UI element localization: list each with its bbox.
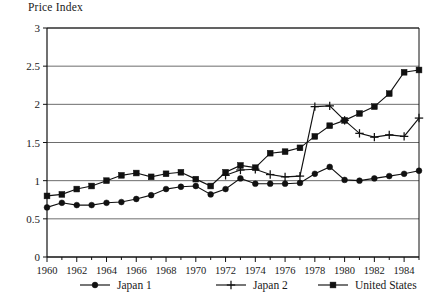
series-japan-2 [221, 102, 423, 181]
data-point-1-1982 [370, 133, 378, 141]
x-tick-label-1970: 1970 [185, 265, 206, 276]
data-point-2-1972 [223, 169, 229, 175]
data-point-2-1976 [282, 149, 288, 155]
y-tick-label-1: 1 [35, 175, 41, 187]
data-point-2-1970 [193, 176, 199, 182]
data-point-2-1966 [133, 170, 139, 176]
data-point-1-1978 [311, 102, 319, 110]
x-tick-label-1978: 1978 [304, 265, 325, 276]
data-point-0-1981 [357, 178, 363, 184]
data-point-0-1962 [74, 202, 80, 208]
gridlines-group [47, 28, 419, 257]
data-point-2-1981 [357, 111, 363, 117]
y-axis-ticks: 00.511.522.53 [26, 22, 47, 263]
data-point-2-1969 [178, 169, 184, 175]
data-point-2-1967 [148, 174, 154, 180]
y-tick-label-2: 2 [35, 98, 41, 110]
data-point-0-1970 [193, 183, 199, 189]
y-tick-label-0: 0 [35, 251, 41, 263]
data-point-2-1985 [416, 67, 422, 73]
data-point-1-1976 [281, 173, 289, 181]
data-point-0-1982 [371, 175, 377, 181]
series-united-states [44, 67, 422, 199]
data-point-0-1979 [327, 164, 333, 170]
data-series-group [44, 67, 423, 210]
data-point-0-1972 [223, 186, 229, 192]
data-point-0-1976 [282, 181, 288, 187]
x-tick-label-1974: 1974 [245, 265, 267, 276]
legend-item-japan-1[interactable]: Japan 1 [80, 279, 152, 292]
data-point-0-1971 [208, 192, 214, 198]
data-point-0-1966 [133, 196, 139, 202]
legend-item-united-states[interactable]: United States [318, 279, 417, 291]
data-point-0-1967 [148, 192, 154, 198]
legend-label-0: Japan 1 [117, 279, 152, 292]
data-point-0-1973 [238, 175, 244, 181]
data-point-0-1978 [312, 171, 318, 177]
legend-marker-circle-icon [92, 282, 98, 288]
data-point-2-1965 [119, 172, 125, 178]
data-point-2-1968 [163, 171, 169, 177]
price-index-chart-figure: Price Index 00.511.522.53 19601962196419… [0, 0, 432, 298]
data-point-0-1974 [252, 181, 258, 187]
y-tick-label-0.5: 0.5 [26, 213, 40, 225]
data-point-2-1984 [401, 69, 407, 75]
data-point-0-1964 [104, 200, 110, 206]
data-point-2-1961 [59, 192, 65, 198]
x-tick-label-1964: 1964 [96, 265, 118, 276]
data-point-0-1980 [342, 177, 348, 183]
x-tick-label-1962: 1962 [66, 265, 87, 276]
data-point-2-1975 [267, 150, 273, 156]
data-point-2-1977 [297, 145, 303, 151]
x-tick-label-1984: 1984 [394, 265, 416, 276]
data-point-0-1975 [267, 181, 273, 187]
data-point-0-1968 [163, 186, 169, 192]
x-tick-label-1960: 1960 [37, 265, 58, 276]
data-point-0-1985 [416, 168, 422, 174]
x-tick-label-1968: 1968 [156, 265, 177, 276]
data-point-1-1975 [266, 170, 274, 178]
data-point-0-1963 [89, 202, 95, 208]
data-point-2-1973 [238, 163, 244, 169]
x-tick-label-1982: 1982 [364, 265, 385, 276]
x-tick-label-1976: 1976 [275, 265, 296, 276]
legend-marker-plus-icon [227, 281, 235, 289]
y-tick-label-2.5: 2.5 [26, 60, 40, 72]
x-tick-label-1980: 1980 [334, 265, 355, 276]
data-point-2-1964 [104, 178, 110, 184]
chart-title: Price Index [28, 1, 83, 13]
data-point-2-1983 [386, 91, 392, 97]
data-point-2-1960 [44, 193, 50, 199]
data-point-1-1977 [296, 172, 304, 180]
legend-label-2: United States [355, 279, 417, 291]
data-point-1-1983 [385, 131, 393, 139]
data-point-0-1983 [386, 173, 392, 179]
x-tick-label-1966: 1966 [126, 265, 147, 276]
chart-legend: Japan 1Japan 2United States [80, 279, 417, 292]
y-tick-label-3: 3 [35, 22, 41, 34]
data-point-2-1978 [312, 133, 318, 139]
data-point-0-1977 [297, 180, 303, 186]
x-axis-ticks: 1960196219641966196819701972197419761978… [37, 257, 420, 276]
data-point-2-1982 [371, 104, 377, 110]
data-point-2-1971 [208, 183, 214, 189]
legend-item-japan-2[interactable]: Japan 2 [216, 279, 288, 292]
series-japan-1 [44, 164, 422, 210]
data-point-0-1965 [119, 199, 125, 205]
data-point-2-1980 [342, 117, 348, 123]
data-point-2-1963 [89, 183, 95, 189]
data-point-0-1961 [59, 200, 65, 206]
legend-marker-square-icon [330, 282, 336, 288]
x-tick-label-1972: 1972 [215, 265, 236, 276]
data-point-0-1960 [44, 204, 50, 210]
legend-label-1: Japan 2 [253, 279, 288, 292]
data-point-2-1974 [252, 165, 258, 171]
data-point-0-1969 [178, 184, 184, 190]
data-point-2-1979 [327, 123, 333, 129]
chart-plot-area: 00.511.522.53 19601962196419661968197019… [0, 0, 432, 298]
data-point-2-1962 [74, 186, 80, 192]
y-tick-label-1.5: 1.5 [26, 137, 40, 149]
data-point-0-1984 [401, 171, 407, 177]
